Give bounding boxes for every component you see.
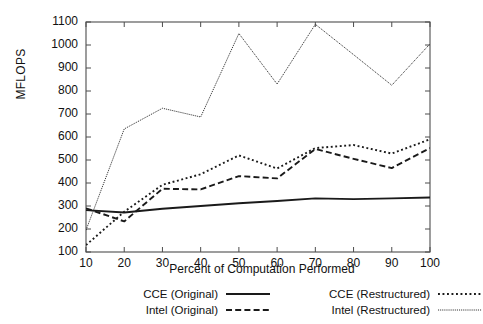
legend-entry[interactable]: Intel (Original): [112, 302, 271, 317]
legend-entry[interactable]: CCE (Original): [112, 286, 271, 301]
series-group: [86, 24, 430, 245]
legend-label: Intel (Original): [112, 304, 218, 316]
series-line-1: [86, 148, 430, 221]
series-line-2: [86, 139, 430, 245]
legend-entry[interactable]: Intel (Restructured): [288, 302, 483, 317]
chart-legend: CCE (Original)Intel (Original)CCE (Restr…: [112, 286, 442, 320]
legend-label: Intel (Restructured): [288, 304, 430, 316]
legend-line-sample: [225, 305, 271, 315]
legend-line-sample: [225, 289, 271, 299]
legend-line-sample: [437, 289, 483, 299]
legend-label: CCE (Original): [112, 288, 218, 300]
legend-entry[interactable]: CCE (Restructured): [288, 286, 483, 301]
legend-line-sample: [437, 305, 483, 315]
legend-label: CCE (Restructured): [288, 288, 430, 300]
axis-frame: [86, 22, 430, 252]
